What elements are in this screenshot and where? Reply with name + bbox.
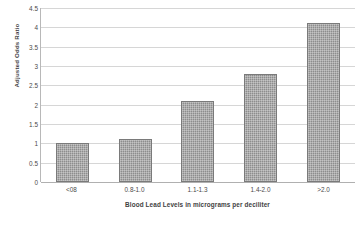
bar-slot bbox=[167, 8, 230, 182]
x-tick-label: 1.1-1.3 bbox=[166, 186, 229, 193]
y-tick-label: 1.5 bbox=[29, 120, 38, 127]
y-tick-label: 4 bbox=[34, 24, 38, 31]
y-tick-label: 0.5 bbox=[29, 159, 38, 166]
y-tick-label: 3.5 bbox=[29, 43, 38, 50]
bar-slot bbox=[104, 8, 167, 182]
x-tick-label: 1.4-2.0 bbox=[229, 186, 292, 193]
bar-chart: Adjusted Odds Ratio 4.5 4 3.5 3 2.5 2 1.… bbox=[0, 0, 363, 225]
bar bbox=[244, 74, 277, 182]
bar bbox=[181, 101, 214, 182]
x-tick-label: >2.0 bbox=[292, 186, 355, 193]
bar bbox=[56, 143, 89, 182]
bar-slot bbox=[229, 8, 292, 182]
y-tick-label: 4.5 bbox=[29, 5, 38, 12]
bar bbox=[307, 23, 340, 182]
y-tick-label: 3 bbox=[34, 62, 38, 69]
plot-area bbox=[40, 8, 355, 182]
bar bbox=[119, 139, 152, 182]
y-tick-label: 0 bbox=[34, 179, 38, 186]
x-axis-tick-labels: <08 0.8-1.0 1.1-1.3 1.4-2.0 >2.0 bbox=[40, 186, 355, 193]
x-axis-title: Blood Lead Levels in micrograms per deci… bbox=[40, 201, 355, 208]
bars-layer bbox=[41, 8, 355, 182]
bar-slot bbox=[292, 8, 355, 182]
y-tick-label: 1 bbox=[34, 140, 38, 147]
x-axis-line bbox=[41, 182, 355, 183]
x-tick-label: <08 bbox=[40, 186, 103, 193]
x-tick-label: 0.8-1.0 bbox=[103, 186, 166, 193]
y-tick-label: 2 bbox=[34, 101, 38, 108]
bar-slot bbox=[41, 8, 104, 182]
y-axis-tick-labels: 4.5 4 3.5 3 2.5 2 1.5 1 0.5 0 bbox=[14, 8, 38, 182]
y-tick-label: 2.5 bbox=[29, 82, 38, 89]
